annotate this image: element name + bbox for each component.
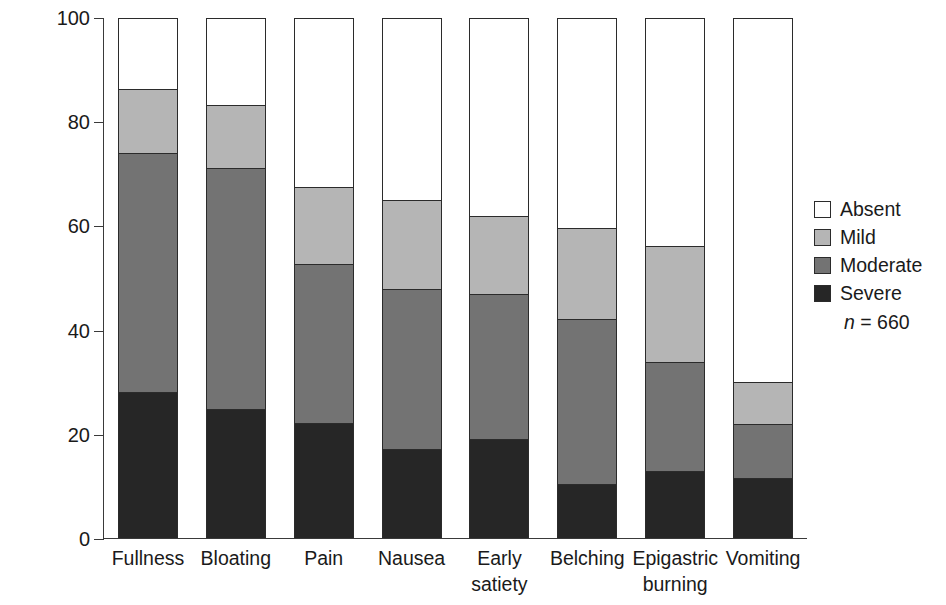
bar-segment-severe[interactable] (733, 478, 793, 539)
x-axis-labels: FullnessBloatingPainNauseaEarly satietyB… (104, 545, 807, 603)
bar-segment-absent[interactable] (206, 18, 266, 105)
stacked-bar[interactable] (469, 18, 529, 539)
legend-label: Absent (840, 195, 901, 223)
chart-legend: AbsentMildModerateSevere n = 660 (814, 195, 946, 337)
bar-segment-mild[interactable] (469, 216, 529, 294)
bar-segment-mild[interactable] (557, 228, 617, 319)
bar-segment-severe[interactable] (382, 449, 442, 539)
bar-segment-absent[interactable] (733, 18, 793, 382)
legend-swatch (814, 285, 831, 302)
bar-segment-absent[interactable] (294, 18, 354, 187)
stacked-bar[interactable] (206, 18, 266, 539)
bar-group (631, 18, 719, 539)
bar-segment-moderate[interactable] (118, 153, 178, 391)
legend-label: Severe (840, 279, 902, 307)
bar-segment-moderate[interactable] (645, 362, 705, 471)
legend-item[interactable]: Moderate (814, 251, 946, 279)
legend-item[interactable]: Severe (814, 279, 946, 307)
bar-segment-mild[interactable] (118, 89, 178, 153)
x-axis-spine (103, 538, 807, 539)
bar-segment-absent[interactable] (118, 18, 178, 89)
legend-item[interactable]: Mild (814, 223, 946, 251)
legend-items: AbsentMildModerateSevere (814, 195, 946, 307)
stacked-bar[interactable] (645, 18, 705, 539)
y-axis-tick-label: 20 (68, 420, 90, 450)
stacked-bar[interactable] (733, 18, 793, 539)
sample-size-annotation: n = 660 (814, 307, 946, 337)
bar-segment-moderate[interactable] (557, 319, 617, 485)
y-axis: 020406080100 (52, 18, 104, 538)
legend-item[interactable]: Absent (814, 195, 946, 223)
bar-segment-severe[interactable] (294, 423, 354, 539)
bar-segment-absent[interactable] (557, 18, 617, 228)
bar-segment-mild[interactable] (294, 187, 354, 264)
legend-swatch (814, 257, 831, 274)
sample-size-value: = 660 (855, 311, 910, 333)
y-axis-tick-mark (94, 539, 104, 540)
bar-group (192, 18, 280, 539)
stacked-bar[interactable] (382, 18, 442, 539)
bar-segment-moderate[interactable] (469, 294, 529, 439)
bar-segment-moderate[interactable] (206, 168, 266, 409)
bar-segment-severe[interactable] (645, 471, 705, 539)
chart-figure: Prevalence (%) of patients 020406080100 … (0, 0, 946, 605)
bar-segment-severe[interactable] (206, 409, 266, 539)
bar-segment-mild[interactable] (382, 200, 442, 289)
bar-group (104, 18, 192, 539)
bar-segment-mild[interactable] (206, 105, 266, 168)
bar-segment-absent[interactable] (382, 18, 442, 200)
bar-segment-absent[interactable] (645, 18, 705, 246)
stacked-bar[interactable] (294, 18, 354, 539)
y-axis-tick-label: 60 (68, 211, 90, 241)
bar-segment-severe[interactable] (557, 484, 617, 539)
bar-group (543, 18, 631, 539)
legend-label: Moderate (840, 251, 922, 279)
bar-segment-severe[interactable] (118, 392, 178, 539)
bar-group (368, 18, 456, 539)
stacked-bar[interactable] (118, 18, 178, 539)
bar-segment-severe[interactable] (469, 439, 529, 539)
bar-segment-mild[interactable] (645, 246, 705, 362)
bar-segment-mild[interactable] (733, 382, 793, 425)
bar-group (719, 18, 807, 539)
bar-segment-moderate[interactable] (294, 264, 354, 423)
y-axis-tick-label: 40 (68, 316, 90, 346)
legend-swatch (814, 229, 831, 246)
bar-segment-moderate[interactable] (382, 289, 442, 449)
plot-area (104, 18, 807, 539)
y-axis-tick-label: 80 (68, 107, 90, 137)
sample-size-symbol: n (844, 311, 855, 333)
bar-group (280, 18, 368, 539)
bar-segment-moderate[interactable] (733, 424, 793, 478)
legend-swatch (814, 201, 831, 218)
x-axis-tick-label: Vomiting (711, 545, 815, 571)
stacked-bar[interactable] (557, 18, 617, 539)
bar-segment-absent[interactable] (469, 18, 529, 216)
y-axis-tick-label: 0 (79, 524, 90, 554)
bar-group (456, 18, 544, 539)
y-axis-tick-label: 100 (57, 3, 90, 33)
legend-label: Mild (840, 223, 876, 251)
